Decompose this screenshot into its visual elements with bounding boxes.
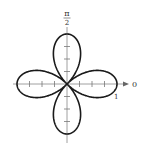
axis-label-pi: π: [64, 9, 69, 18]
polar-axis-label-zero: 0: [132, 80, 137, 89]
polar-rose-chart: π 2 0 1: [0, 0, 145, 150]
polar-axis-arrow-icon: [123, 82, 129, 87]
axis-label-two: 2: [65, 19, 69, 27]
radius-label-one: 1: [114, 93, 118, 101]
